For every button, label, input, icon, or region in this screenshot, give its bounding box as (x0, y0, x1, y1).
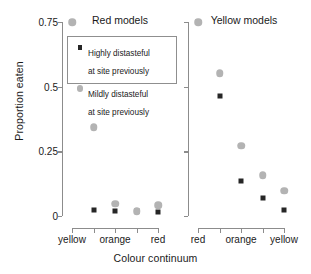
x-tick-label: yellow (270, 234, 298, 245)
x-axis-tick (220, 228, 221, 233)
y-axis-tick (58, 22, 63, 23)
grey-circle-marker-icon (74, 83, 86, 94)
panel-yellow-models: Yellow models redorangeyellow (188, 0, 296, 274)
x-axis-tick (198, 228, 199, 233)
data-point-mildly-distasteful (111, 200, 119, 208)
y-tick-label: 0.75 (39, 17, 58, 28)
legend-item-mildly-distasteful: Mildly distasteful at site previously (74, 83, 171, 119)
data-point-mildly-distasteful (90, 123, 98, 131)
x-tick-label: red (151, 234, 165, 245)
data-point-mildly-distasteful (259, 171, 267, 179)
data-point-highly-distasteful (91, 207, 96, 212)
data-point-mildly-distasteful (68, 18, 76, 26)
x-axis-tick (137, 228, 138, 233)
x-axis-tick (94, 228, 95, 233)
data-point-highly-distasteful (239, 179, 244, 184)
black-square-marker-icon (74, 42, 86, 53)
data-point-highly-distasteful (217, 94, 222, 99)
data-point-mildly-distasteful (237, 142, 245, 150)
y-tick-label: 0.25 (39, 146, 58, 157)
legend-item-label: Highly distasteful at site previously (88, 42, 150, 78)
x-axis-tick (115, 228, 116, 233)
y-axis-tick (58, 216, 63, 217)
y-axis-tick (184, 151, 189, 152)
legend: Highly distasteful at site previously Mi… (67, 36, 177, 84)
x-axis-tick (284, 228, 285, 233)
legend-label-line1: Mildly distasteful (88, 90, 148, 99)
data-point-mildly-distasteful (280, 187, 288, 195)
x-axis-tick (158, 228, 159, 233)
data-point-highly-distasteful (282, 207, 287, 212)
data-point-highly-distasteful (113, 209, 118, 214)
y-axis-tick (184, 22, 189, 23)
y-axis-tick (58, 87, 63, 88)
x-tick-label: orange (99, 234, 130, 245)
x-tick-label: orange (225, 234, 256, 245)
data-point-mildly-distasteful (154, 201, 162, 209)
y-axis-tick (58, 151, 63, 152)
y-axis-tick-labels: 0.75 0.5 0.25 0 (14, 0, 58, 274)
data-point-mildly-distasteful (216, 69, 224, 77)
legend-label-line2: at site previously (88, 67, 149, 76)
figure-root: Proportion eaten 0.75 0.5 0.25 0 Red mod… (0, 0, 311, 274)
data-point-mildly-distasteful (194, 18, 202, 26)
legend-label-line1: Highly distasteful (88, 49, 150, 58)
x-axis-tick (72, 228, 73, 233)
x-axis-title: Colour continuum (0, 252, 311, 264)
y-axis-line (62, 22, 63, 216)
legend-item-highly-distasteful: Highly distasteful at site previously (74, 42, 171, 78)
y-axis-line (188, 22, 189, 216)
x-tick-label: red (191, 234, 205, 245)
x-axis-tick (263, 228, 264, 233)
panel-title: Red models (66, 14, 174, 26)
legend-label-line2: at site previously (88, 108, 149, 117)
x-tick-label: yellow (58, 234, 86, 245)
panel-title: Yellow models (190, 14, 298, 26)
legend-item-label: Mildly distasteful at site previously (88, 83, 149, 119)
x-axis-tick (241, 228, 242, 233)
y-tick-label: 0.5 (44, 81, 58, 92)
y-axis-tick (184, 216, 189, 217)
y-axis-tick (184, 87, 189, 88)
data-point-mildly-distasteful (133, 208, 141, 216)
data-point-highly-distasteful (156, 210, 161, 215)
data-point-highly-distasteful (260, 196, 265, 201)
